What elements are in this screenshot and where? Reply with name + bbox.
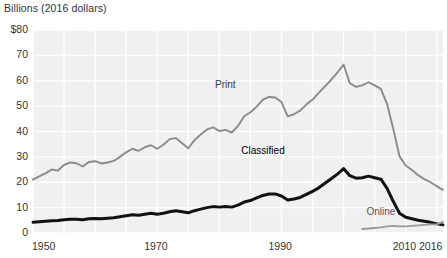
y-tick-label: 50	[0, 99, 28, 111]
y-axis-title: Billions (2016 dollars)	[4, 2, 107, 14]
x-tick-label: 1970	[144, 240, 167, 252]
y-tick-label: 20	[0, 175, 28, 187]
series-label-online: Online	[366, 206, 395, 217]
y-tick-label: 40	[0, 125, 28, 137]
data-series-lines	[33, 30, 443, 233]
y-tick-label: 30	[0, 150, 28, 162]
y-tick-label: $80	[0, 23, 28, 35]
x-tick-label: 2010	[393, 240, 416, 252]
x-tick-label: 2016	[419, 240, 442, 252]
series-label-classified: Classified	[241, 145, 284, 156]
y-tick-label: 10	[0, 201, 28, 213]
y-tick-label: 60	[0, 74, 28, 86]
series-label-print: Print	[215, 79, 236, 90]
x-tick-label: 1990	[268, 240, 291, 252]
y-tick-label: 70	[0, 48, 28, 60]
y-tick-label: 0	[0, 226, 28, 238]
plot-area	[33, 30, 443, 233]
x-tick-label: 1950	[32, 240, 55, 252]
newspaper-ad-revenue-chart: Billions (2016 dollars) $807060504030201…	[0, 0, 447, 258]
series-line-print	[33, 65, 443, 190]
